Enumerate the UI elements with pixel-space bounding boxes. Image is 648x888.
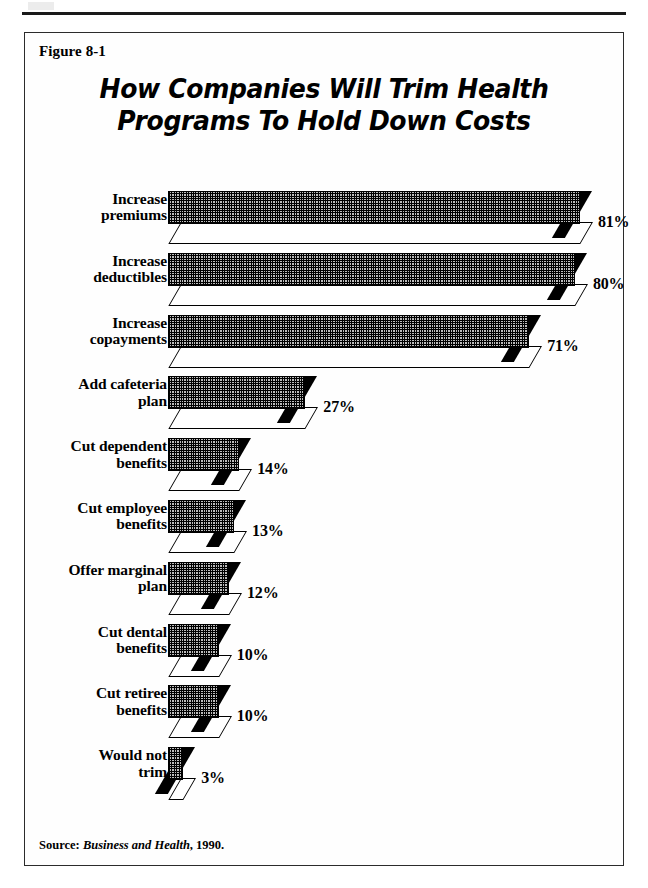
bar-category-label: Cut dentalbenefits (17, 624, 167, 657)
bar-fill (168, 624, 219, 657)
bar-category-label-line-2: plan (17, 393, 167, 409)
bar-3d (168, 191, 593, 249)
bar-bottom-face (168, 222, 593, 244)
bar-3d (168, 624, 232, 682)
bar-category-label-line-1: Increase (17, 315, 167, 331)
bar-fill (168, 685, 219, 718)
bar-value-label: 13% (252, 522, 283, 540)
bar-3d (168, 438, 252, 496)
bar-bottom-face (168, 469, 252, 491)
bar-fill (168, 747, 183, 780)
bar-category-label-line-1: Cut retiree (17, 685, 167, 701)
bar-category-label-line-2: benefits (17, 455, 167, 471)
bar-bottom-face (168, 284, 588, 306)
bar-value-label: 14% (257, 460, 288, 478)
bar-category-label-line-2: trim (17, 764, 167, 780)
bar-row: Increasecopayments71% (25, 315, 625, 373)
bar-row: Would nottrim3% (25, 747, 625, 805)
bar-fill (168, 191, 580, 224)
bar-category-label-line-2: benefits (17, 640, 167, 656)
bar-category-label: Offer marginalplan (17, 562, 167, 595)
bar-value-label: 10% (237, 646, 268, 664)
bar-row: Increasepremiums81% (25, 191, 625, 249)
bar-3d (168, 685, 232, 743)
bar-value-label: 81% (598, 213, 629, 231)
bar-3d (168, 253, 588, 311)
bar-fill (168, 500, 234, 533)
bar-category-label: Increasecopayments (17, 315, 167, 348)
bar-category-label-line-2: premiums (17, 207, 167, 223)
bar-category-label-line-1: Cut dependent (17, 438, 167, 454)
bar-category-label: Would nottrim (17, 747, 167, 780)
bar-fill (168, 315, 529, 348)
bar-category-label-line-1: Add cafeteria (17, 376, 167, 392)
bar-category-label-line-1: Cut employee (17, 500, 167, 516)
bar-value-label: 3% (201, 769, 225, 787)
chart-title-line-2: Programs To Hold Down Costs (46, 105, 602, 137)
bar-row: Cut dentalbenefits10% (25, 624, 625, 682)
bar-category-label: Add cafeteriaplan (17, 376, 167, 409)
source-publication: Business and Health (83, 838, 190, 852)
bar-3d (168, 747, 196, 805)
page-header-artifact (28, 2, 54, 10)
bar-value-label: 27% (323, 398, 354, 416)
bar-value-label: 12% (247, 584, 278, 602)
bar-category-label-line-1: Would not (17, 747, 167, 763)
bar-row: Cut retireebenefits10% (25, 685, 625, 743)
source-prefix: Source: (39, 838, 80, 852)
chart-title: How Companies Will Trim Health Programs … (46, 73, 602, 137)
bar-category-label-line-1: Increase (17, 191, 167, 207)
bar-value-label: 10% (237, 707, 268, 725)
chart-title-line-1: How Companies Will Trim Health (99, 73, 548, 104)
bar-3d (168, 376, 318, 434)
bar-bottom-face (168, 346, 542, 368)
bar-fill (168, 376, 305, 409)
figure-frame: Figure 8-1 How Companies Will Trim Healt… (24, 32, 624, 866)
bar-category-label-line-1: Increase (17, 253, 167, 269)
bar-fill (168, 562, 229, 595)
bar-3d (168, 562, 242, 620)
bar-row: Offer marginalplan12% (25, 562, 625, 620)
bar-category-label-line-2: benefits (17, 516, 167, 532)
source-note: Source: Business and Health, 1990. (39, 838, 224, 853)
bar-row: Cut dependentbenefits14% (25, 438, 625, 496)
bar-value-label: 80% (593, 275, 624, 293)
figure-label: Figure 8-1 (39, 43, 106, 60)
bar-row: Add cafeteriaplan27% (25, 376, 625, 434)
bar-category-label: Cut employeebenefits (17, 500, 167, 533)
bar-fill (168, 253, 575, 286)
bar-row: Increasedeductibles80% (25, 253, 625, 311)
bar-category-label-line-2: copayments (17, 331, 167, 347)
bar-category-label-line-1: Cut dental (17, 624, 167, 640)
bar-3d (168, 500, 247, 558)
bar-category-label: Cut dependentbenefits (17, 438, 167, 471)
bar-value-label: 71% (547, 337, 578, 355)
page-header-rule (22, 12, 626, 15)
bar-category-label-line-2: benefits (17, 702, 167, 718)
source-suffix: , 1990. (190, 838, 224, 852)
bar-category-label: Increasepremiums (17, 191, 167, 224)
bar-category-label-line-2: deductibles (17, 269, 167, 285)
bar-category-label: Cut retireebenefits (17, 685, 167, 718)
bar-category-label: Increasedeductibles (17, 253, 167, 286)
bar-category-label-line-2: plan (17, 578, 167, 594)
bar-category-label-line-1: Offer marginal (17, 562, 167, 578)
bar-chart-plot: Increasepremiums81%Increasedeductibles80… (25, 191, 625, 811)
bar-3d (168, 315, 542, 373)
bar-fill (168, 438, 239, 471)
bar-row: Cut employeebenefits13% (25, 500, 625, 558)
